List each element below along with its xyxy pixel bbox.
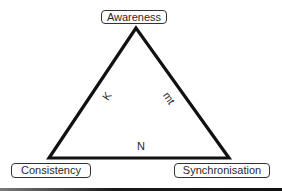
node-consistency: Consistency <box>11 163 91 178</box>
triangle-shape <box>49 28 229 158</box>
bottom-divider <box>0 188 282 191</box>
node-awareness: Awareness <box>101 10 167 24</box>
node-synchronisation: Synchronisation <box>174 163 270 178</box>
edge-label-n: N <box>137 140 145 152</box>
